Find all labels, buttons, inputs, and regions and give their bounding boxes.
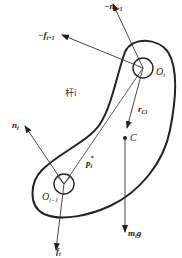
- label-o-i-1: Oi−1: [42, 191, 58, 203]
- vector-neg-f-i+1: [62, 35, 143, 68]
- label-n-i: ni: [12, 120, 19, 131]
- o-i-1-fork-left: [58, 177, 64, 184]
- vector-neg-n-i+1: [113, 4, 143, 68]
- center-of-mass-dot: [123, 136, 127, 140]
- label-p-i-star: p*i: [85, 155, 95, 169]
- o-i-1-fork-right: [64, 177, 70, 184]
- label-m-i-g: mig: [128, 228, 142, 239]
- label-r-ci: rCi: [138, 104, 148, 115]
- vector-n-i: [25, 126, 64, 184]
- label-neg-f-i+1: −fi+1: [38, 30, 55, 41]
- link-force-diagram: −ni+1 −fi+1 Oi 杆i rCi ni C p*i Oi−1 fi m…: [0, 0, 182, 258]
- vector-r-ci: [127, 68, 143, 128]
- label-neg-n-i+1: −ni+1: [104, 1, 123, 12]
- label-o-i: Oi: [156, 66, 165, 78]
- label-c: C: [130, 132, 137, 143]
- label-link-i: 杆i: [65, 87, 77, 98]
- label-f-i: fi: [56, 246, 61, 257]
